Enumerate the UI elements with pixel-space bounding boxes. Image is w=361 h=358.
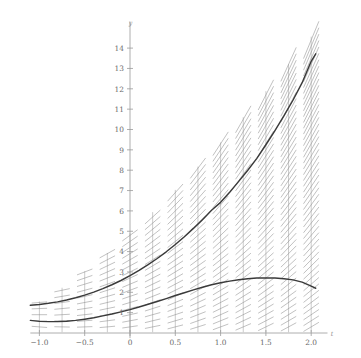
x-axis-tick-label: 1.5 xyxy=(260,338,272,347)
slope-field-column xyxy=(32,301,47,332)
x-axis-tick-label: 0 xyxy=(128,338,133,347)
slope-field-column xyxy=(190,158,205,332)
y-axis-tick-label: 5 xyxy=(119,227,124,236)
slope-field-column xyxy=(100,249,115,332)
slope-field-column xyxy=(168,184,183,332)
axes-layer xyxy=(30,22,327,338)
chart-canvas: −1.0−0.500.51.01.52.01234567891011121314… xyxy=(0,0,361,358)
slope-field-column xyxy=(236,106,251,332)
y-axis-tick-label: 1 xyxy=(119,308,124,317)
slope-field-column xyxy=(258,80,273,332)
y-axis-tick-label: 6 xyxy=(119,207,124,216)
y-axis-tick-label: 10 xyxy=(115,125,125,134)
y-axis-tick-label: 3 xyxy=(119,268,124,277)
slope-field-column xyxy=(77,269,92,332)
y-axis-tick-label: 11 xyxy=(115,105,124,114)
y-axis-tick-label: 13 xyxy=(115,64,125,73)
y-axis-tick-label: 14 xyxy=(115,44,125,53)
y-axis-tick-label: 2 xyxy=(119,288,124,297)
y-axis-tick-label: 7 xyxy=(119,186,124,195)
slope-field-column xyxy=(145,210,160,332)
slope-field-column xyxy=(54,288,69,332)
x-axis-tick-label: 0.5 xyxy=(169,338,181,347)
x-axis-tick-label: −1.0 xyxy=(30,338,48,347)
x-axis-tick-label: 1.0 xyxy=(215,338,227,347)
y-axis-name: y xyxy=(128,19,133,27)
x-axis-tick-label: −0.5 xyxy=(76,338,94,347)
y-axis-tick-label: 9 xyxy=(119,146,124,155)
y-axis-tick-label: 4 xyxy=(119,247,124,256)
slope-field-plot: −1.0−0.500.51.01.52.01234567891011121314… xyxy=(0,0,361,358)
slope-field-layer xyxy=(32,21,319,332)
slope-field-column xyxy=(281,47,296,332)
solution-curve xyxy=(30,278,315,322)
x-axis-tick-label: 2.0 xyxy=(305,338,317,347)
slope-field-column xyxy=(213,132,228,332)
x-axis-name: t xyxy=(331,330,334,337)
y-axis-tick-label: 8 xyxy=(119,166,124,175)
y-axis-tick-label: 12 xyxy=(115,85,124,94)
